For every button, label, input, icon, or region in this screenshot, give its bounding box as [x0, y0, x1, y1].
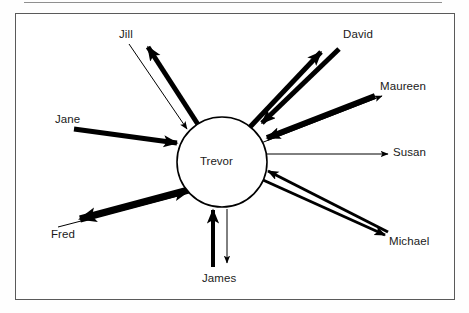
- node-label-michael: Michael: [389, 235, 429, 247]
- edge-fred-to-trevor: [58, 194, 185, 227]
- node-label-susan: Susan: [393, 146, 426, 158]
- edge-jane-to-trevor: [74, 129, 177, 143]
- edge-trevor-to-michael: [263, 180, 385, 235]
- node-label-david: David: [343, 28, 373, 40]
- center-node-label: Trevor: [200, 155, 233, 167]
- node-label-jill: Jill: [119, 28, 133, 40]
- node-label-jane: Jane: [55, 113, 80, 125]
- edge-trevor-to-david: [250, 52, 321, 127]
- node-label-james: James: [202, 272, 236, 284]
- edge-jill-to-trevor: [129, 44, 187, 129]
- node-label-maureen: Maureen: [380, 80, 426, 92]
- edge-trevor-to-jill: [148, 47, 199, 126]
- diagram-page: Trevor Jill David Maureen Susan Michael …: [0, 0, 469, 313]
- edge-trevor-to-fred: [80, 188, 196, 219]
- edge-michael-to-trevor: [268, 171, 388, 232]
- node-label-fred: Fred: [51, 228, 75, 240]
